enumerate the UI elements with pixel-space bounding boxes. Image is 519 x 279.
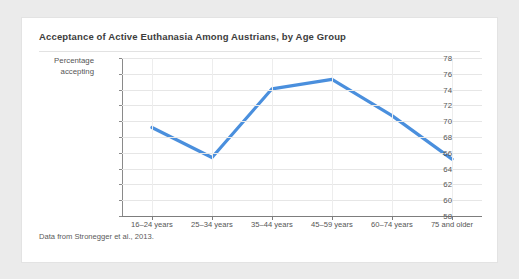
y-axis-tick-mark — [119, 200, 122, 201]
gridline-vertical — [152, 58, 153, 216]
gridline-vertical — [452, 58, 453, 216]
y-axis-tick-label: 60 — [428, 196, 452, 205]
plot-wrapper: 586062646668707274767816–24 years25–34 y… — [96, 58, 482, 216]
x-axis-tick-label: 16–24 years — [131, 220, 173, 229]
y-axis-tick-mark — [119, 121, 122, 122]
source-note: Data from Stronegger et al., 2013. — [39, 232, 154, 241]
y-axis-tick-label: 68 — [428, 133, 452, 142]
page-title: Acceptance of Active Euthanasia Among Au… — [39, 31, 346, 42]
y-axis-tick-mark — [119, 137, 122, 138]
y-axis-label: Percentage accepting — [32, 56, 94, 77]
x-axis-tick-label: 75 and older — [431, 220, 473, 229]
figure-card: Acceptance of Active Euthanasia Among Au… — [22, 18, 497, 262]
title-divider — [39, 51, 480, 52]
y-axis-tick-label: 64 — [428, 164, 452, 173]
y-axis-tick-mark — [119, 153, 122, 154]
gridline-vertical — [212, 58, 213, 216]
x-axis-tick-label: 25–34 years — [191, 220, 233, 229]
y-axis-tick-label: 72 — [428, 101, 452, 110]
y-axis-label-line1: Percentage — [32, 56, 94, 67]
y-axis-tick-mark — [119, 169, 122, 170]
y-axis-label-line2: accepting — [32, 67, 94, 78]
series-line — [152, 79, 452, 159]
y-axis-tick-label: 70 — [428, 117, 452, 126]
y-axis-tick-label: 74 — [428, 85, 452, 94]
gridline-vertical — [392, 58, 393, 216]
y-axis-tick-label: 76 — [428, 69, 452, 78]
gridline-vertical — [272, 58, 273, 216]
gridline-vertical — [332, 58, 333, 216]
x-axis-tick-label: 35–44 years — [251, 220, 293, 229]
y-axis-tick-mark — [119, 58, 122, 59]
y-axis-tick-label: 78 — [428, 54, 452, 63]
x-axis-tick-label: 60–74 years — [371, 220, 413, 229]
y-axis-tick-mark — [119, 105, 122, 106]
y-axis-tick-label: 66 — [428, 148, 452, 157]
y-axis-tick-mark — [119, 184, 122, 185]
y-axis-tick-label: 62 — [428, 180, 452, 189]
x-axis-tick-label: 45–59 years — [311, 220, 353, 229]
y-axis-tick-mark — [119, 90, 122, 91]
y-axis-tick-mark — [119, 74, 122, 75]
y-axis-tick-mark — [119, 216, 122, 217]
